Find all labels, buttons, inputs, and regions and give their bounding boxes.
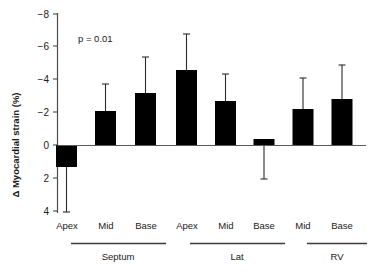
bar-lat-apex xyxy=(176,70,197,145)
bar-septum-apex xyxy=(56,145,77,167)
y-axis-title: Δ Myocardial strain (%) xyxy=(10,92,21,197)
category-label-6: Mid xyxy=(295,220,310,231)
category-label-3: Apex xyxy=(176,220,198,231)
bar-septum-mid xyxy=(95,111,116,145)
y-tick-label-minus8: −8 xyxy=(38,9,50,20)
category-label-1: Mid xyxy=(98,220,113,231)
category-label-4: Mid xyxy=(218,220,233,231)
group-label-lat: Lat xyxy=(230,251,244,262)
group-label-septum: Septum xyxy=(102,251,135,262)
group-label-rv: RV xyxy=(330,251,344,262)
y-tick-label-zero: 0 xyxy=(43,140,49,151)
bar-rv-mid xyxy=(293,109,314,145)
y-tick-label-4: 4 xyxy=(43,206,49,217)
y-tick-label-minus4: −4 xyxy=(38,74,50,85)
bar-chart: −8 −6 −4 −2 0 2 4 Δ Myocardial strain (%… xyxy=(0,0,383,274)
category-label-5: Base xyxy=(253,220,275,231)
category-label-2: Base xyxy=(135,220,157,231)
y-tick-label-minus2: −2 xyxy=(38,107,50,118)
category-label-0: Apex xyxy=(56,220,78,231)
bar-rv-base xyxy=(332,99,353,145)
p-value-annotation: p = 0.01 xyxy=(78,33,113,44)
category-label-7: Base xyxy=(331,220,353,231)
y-tick-label-minus6: −6 xyxy=(38,41,50,52)
y-tick-label-2: 2 xyxy=(43,173,49,184)
bar-lat-base xyxy=(254,139,275,145)
bar-septum-base xyxy=(135,93,156,145)
figure-container: −8 −6 −4 −2 0 2 4 Δ Myocardial strain (%… xyxy=(0,0,383,274)
bar-lat-mid xyxy=(215,101,236,145)
